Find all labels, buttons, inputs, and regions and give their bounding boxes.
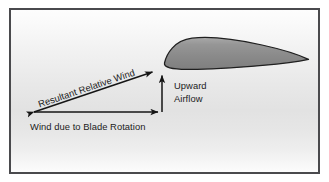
wind-due-to-blade-rotation-vector: Wind due to Blade Rotation xyxy=(30,112,158,132)
resultant-relative-wind-vector: Resultant Relative Wind xyxy=(34,67,153,112)
wind-due-to-blade-rotation-label: Wind due to Blade Rotation xyxy=(30,121,145,132)
upward-airflow-label-line1: Upward xyxy=(174,80,207,91)
figure-frame-border: Resultant Relative Wind Wind due to Blad… xyxy=(9,8,320,174)
airfoil-shape xyxy=(164,37,308,69)
airfoil-cross-section xyxy=(164,37,308,69)
resultant-relative-wind-label: Resultant Relative Wind xyxy=(37,67,136,110)
upward-airflow-label-line2: Airflow xyxy=(174,93,203,104)
airfoil-diagram-figure: Resultant Relative Wind Wind due to Blad… xyxy=(0,0,329,182)
upward-airflow-vector: Upward Airflow xyxy=(162,76,207,113)
resultant-relative-wind-arrow xyxy=(34,72,153,112)
diagram-canvas: Resultant Relative Wind Wind due to Blad… xyxy=(11,10,318,172)
